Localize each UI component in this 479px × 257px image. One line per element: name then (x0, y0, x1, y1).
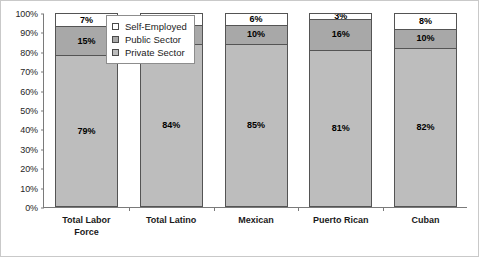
bar-segment[interactable]: 10% (394, 29, 457, 48)
x-axis-tick-mark (214, 207, 215, 211)
x-axis-category-label: Total Labor Force (44, 214, 129, 238)
legend-entry[interactable]: Public Sector (112, 33, 187, 46)
bar-stack[interactable]: 8%10%82% (394, 13, 457, 207)
legend-entry[interactable]: Private Sector (112, 46, 187, 59)
bar-segment-value-label: 84% (162, 121, 180, 130)
bar-segment-value-label: 7% (80, 16, 93, 25)
y-axis-tick-mark (41, 188, 44, 189)
bar-segment[interactable]: 8% (394, 13, 457, 29)
x-axis-category-label: Mexican (214, 214, 299, 226)
bar-segment[interactable]: 84% (140, 44, 203, 207)
y-axis-tick-mark (41, 208, 44, 209)
legend-entry-label: Self-Employed (125, 20, 187, 33)
bar-segment-value-label: 6% (249, 15, 262, 24)
bar-segment-value-label: 8% (419, 17, 432, 26)
bar-segment[interactable]: 85% (225, 44, 288, 207)
y-axis-tick-label: 100% (15, 9, 44, 19)
plot-area: 0%10%20%30%40%50%60%70%80%90%100%7%15%79… (43, 14, 467, 208)
legend-swatch-icon (112, 23, 119, 30)
x-axis-tick-mark (383, 207, 384, 211)
bar-segment-value-label: 79% (77, 127, 95, 136)
chart-figure: 0%10%20%30%40%50%60%70%80%90%100%7%15%79… (0, 0, 479, 257)
bar-segment-value-label: 82% (417, 123, 435, 132)
legend-entry-label: Public Sector (125, 33, 181, 46)
y-axis-tick-mark (41, 72, 44, 73)
x-axis-category-label: Total Latino (129, 214, 214, 226)
y-axis-tick-mark (41, 130, 44, 131)
chart-legend: Self-EmployedPublic SectorPrivate Sector (106, 15, 195, 64)
y-axis-tick-mark (41, 169, 44, 170)
x-axis-tick-mark (129, 207, 130, 211)
legend-entry[interactable]: Self-Employed (112, 20, 187, 33)
legend-swatch-icon (112, 36, 119, 43)
bar-segment-value-label: 15% (77, 37, 95, 46)
bar-segment[interactable]: 10% (225, 25, 288, 44)
bar-segment-value-label: 85% (247, 121, 265, 130)
bar-segment-value-label: 16% (332, 30, 350, 39)
bar-segment[interactable]: 16% (309, 19, 372, 50)
bar-segment-value-label: 10% (417, 34, 435, 43)
y-axis-tick-mark (41, 52, 44, 53)
y-axis-tick-mark (41, 91, 44, 92)
x-axis-category-label: Puerto Rican (298, 214, 383, 226)
bar-segment[interactable]: 6% (225, 13, 288, 25)
x-axis-tick-mark (298, 207, 299, 211)
bar-stack[interactable]: 3%16%81% (309, 13, 372, 207)
y-axis-tick-mark (41, 111, 44, 112)
y-axis-tick-mark (41, 14, 44, 15)
bar-segment-value-label: 81% (332, 124, 350, 133)
bar-stack[interactable]: 6%10%85% (225, 13, 288, 207)
bar-segment-value-label: 10% (247, 30, 265, 39)
legend-entry-label: Private Sector (125, 46, 185, 59)
legend-swatch-icon (112, 49, 119, 56)
bar-segment[interactable]: 79% (55, 55, 118, 207)
y-axis-tick-mark (41, 149, 44, 150)
bar-segment[interactable]: 82% (394, 48, 457, 207)
bar-segment[interactable]: 81% (309, 50, 372, 207)
y-axis-tick-mark (41, 33, 44, 34)
x-axis-category-label: Cuban (383, 214, 468, 226)
